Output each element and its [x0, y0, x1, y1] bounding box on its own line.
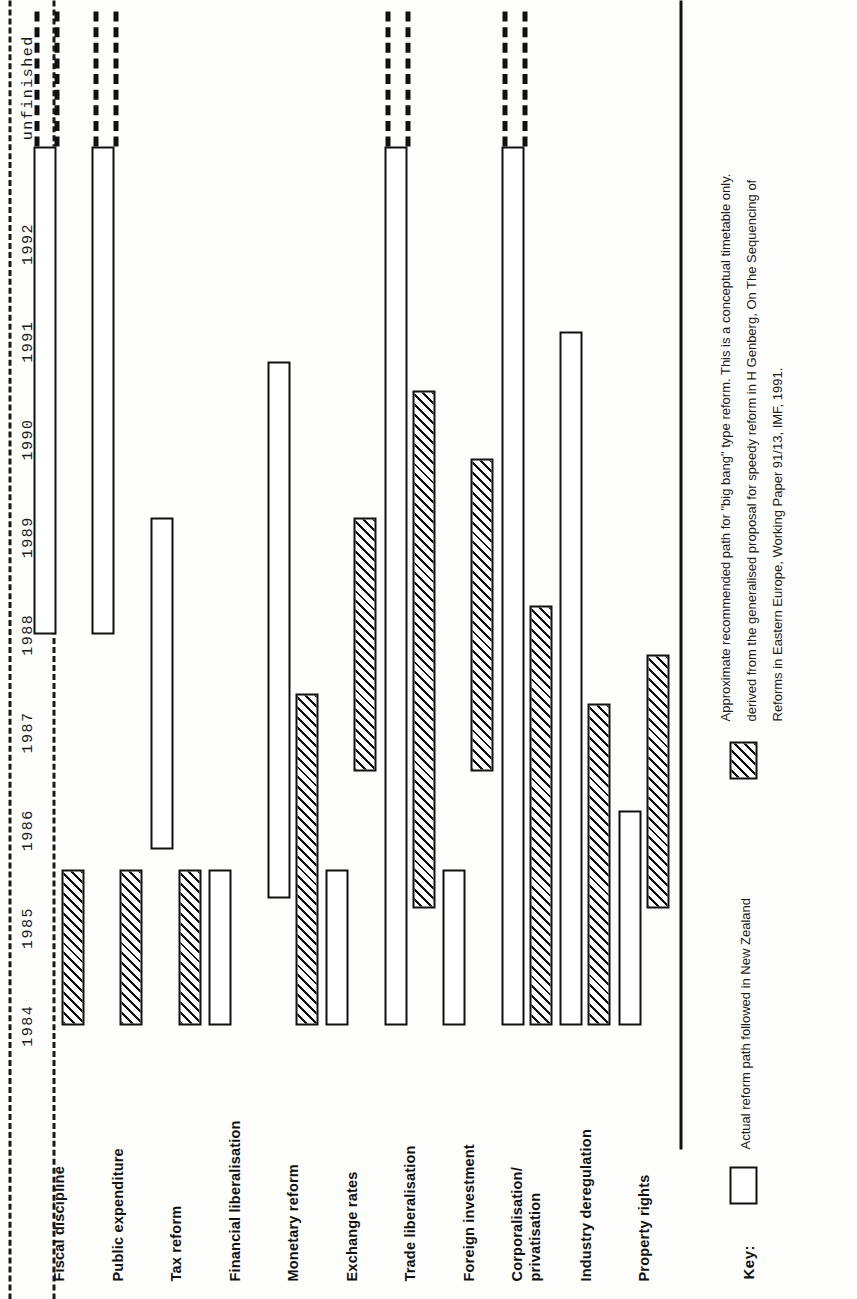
key-legend: Key: Actual reform path followed in New … — [0, 0, 857, 1299]
rotated-chart-canvas: 198419851986198719881989199019911992unfi… — [0, 0, 857, 1299]
key-text-hatched-line2: derived from the generalised proposal fo… — [743, 179, 758, 721]
key-text-hatched-line3: Reforms in Eastern Europe, Working Paper… — [769, 367, 784, 721]
key-swatch-hatched — [729, 741, 757, 779]
key-swatch-open — [729, 1166, 757, 1204]
key-label: Key: — [739, 1244, 756, 1279]
key-text-open: Actual reform path followed in New Zeala… — [737, 898, 752, 1149]
key-text-hatched-line1: Approximate recommended path for "big ba… — [717, 173, 732, 721]
